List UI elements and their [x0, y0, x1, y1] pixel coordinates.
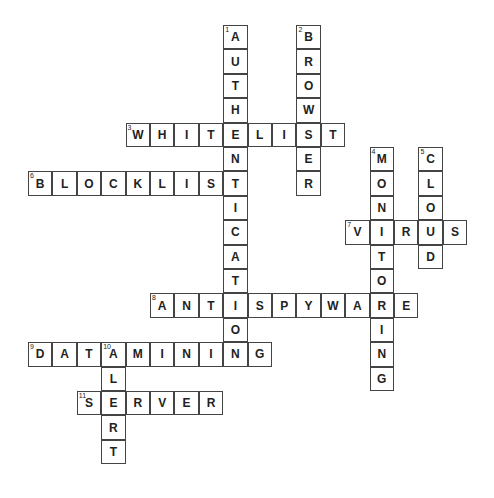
crossword-cell[interactable]: N	[223, 147, 247, 171]
crossword-cell[interactable]: T	[101, 440, 125, 464]
crossword-cell[interactable]: I	[272, 123, 296, 147]
crossword-cell[interactable]: H	[150, 123, 174, 147]
crossword-cell[interactable]: 4M	[370, 147, 394, 171]
crossword-cell[interactable]: I	[174, 171, 198, 195]
crossword-cell[interactable]: I	[223, 293, 247, 317]
cell-letter: S	[207, 177, 215, 191]
crossword-cell[interactable]: 6B	[28, 171, 52, 195]
crossword-cell[interactable]: W	[321, 293, 345, 317]
crossword-cell[interactable]: O	[223, 318, 247, 342]
crossword-cell[interactable]: S	[248, 293, 272, 317]
crossword-cell[interactable]: V	[150, 391, 174, 415]
crossword-cell[interactable]: 2B	[296, 25, 320, 49]
crossword-cell[interactable]: I	[150, 342, 174, 366]
cell-letter: G	[377, 372, 386, 386]
crossword-cell[interactable]: E	[174, 391, 198, 415]
crossword-cell[interactable]: Y	[296, 293, 320, 317]
crossword-cell[interactable]: T	[223, 171, 247, 195]
crossword-cell[interactable]: T	[77, 342, 101, 366]
crossword-cell[interactable]: L	[418, 171, 442, 195]
cell-letter: I	[185, 177, 188, 191]
crossword-cell[interactable]: S	[443, 220, 467, 244]
cell-letter: O	[84, 177, 93, 191]
cell-letter: E	[183, 396, 191, 410]
crossword-cell[interactable]: R	[101, 415, 125, 439]
crossword-cell[interactable]: N	[370, 342, 394, 366]
crossword-cell[interactable]: T	[370, 245, 394, 269]
crossword-cell[interactable]: P	[272, 293, 296, 317]
crossword-cell[interactable]: 7V	[345, 220, 369, 244]
cell-letter: R	[304, 55, 313, 69]
crossword-cell[interactable]: U	[418, 220, 442, 244]
crossword-cell[interactable]: M	[126, 342, 150, 366]
crossword-cell[interactable]: O	[418, 196, 442, 220]
crossword-cell[interactable]: N	[174, 293, 198, 317]
crossword-cell[interactable]: O	[370, 269, 394, 293]
crossword-cell[interactable]: 11S	[77, 391, 101, 415]
crossword-cell[interactable]: R	[394, 220, 418, 244]
crossword-cell[interactable]: C	[223, 220, 247, 244]
crossword-cell[interactable]: R	[199, 391, 223, 415]
crossword-cell[interactable]: A	[223, 245, 247, 269]
crossword-cell[interactable]: N	[370, 196, 394, 220]
crossword-cell[interactable]: H	[223, 98, 247, 122]
crossword-cell[interactable]: A	[345, 293, 369, 317]
crossword-cell[interactable]: K	[126, 171, 150, 195]
crossword-cell[interactable]: R	[126, 391, 150, 415]
cell-letter: T	[207, 128, 214, 142]
crossword-cell[interactable]: W	[296, 98, 320, 122]
crossword-cell[interactable]: I	[174, 123, 198, 147]
crossword-cell[interactable]: 9D	[28, 342, 52, 366]
crossword-cell[interactable]: G	[248, 342, 272, 366]
crossword-cell[interactable]: U	[223, 49, 247, 73]
crossword-cell[interactable]: E	[101, 391, 125, 415]
cell-letter: L	[256, 128, 263, 142]
crossword-cell[interactable]: N	[223, 342, 247, 366]
crossword-cell[interactable]: L	[101, 367, 125, 391]
crossword-cell[interactable]: A	[52, 342, 76, 366]
crossword-cell[interactable]: L	[150, 171, 174, 195]
crossword-cell[interactable]: R	[296, 49, 320, 73]
crossword-cell[interactable]: O	[370, 171, 394, 195]
crossword-cell[interactable]: I	[199, 342, 223, 366]
cell-letter: A	[231, 250, 240, 264]
cell-letter: I	[234, 299, 237, 313]
crossword-cell[interactable]: C	[101, 171, 125, 195]
crossword-cell[interactable]: G	[370, 367, 394, 391]
crossword-cell[interactable]: T	[321, 123, 345, 147]
crossword-cell[interactable]: T	[223, 269, 247, 293]
crossword-cell[interactable]: 3W	[126, 123, 150, 147]
crossword-cell[interactable]: 1A	[223, 25, 247, 49]
crossword-cell[interactable]: L	[52, 171, 76, 195]
cell-letter: M	[377, 152, 387, 166]
crossword-cell[interactable]: E	[296, 147, 320, 171]
cell-letter: R	[133, 396, 142, 410]
crossword-cell[interactable]: R	[296, 171, 320, 195]
crossword-cell[interactable]: 8A	[150, 293, 174, 317]
cell-letter: C	[426, 152, 435, 166]
cell-letter: L	[61, 177, 68, 191]
cell-letter: L	[427, 177, 434, 191]
crossword-cell[interactable]: T	[199, 123, 223, 147]
crossword-cell[interactable]: 5C	[418, 147, 442, 171]
crossword-cell[interactable]: E	[223, 123, 247, 147]
crossword-cell[interactable]: S	[296, 123, 320, 147]
cell-letter: E	[231, 128, 239, 142]
crossword-cell[interactable]: S	[199, 171, 223, 195]
crossword-cell[interactable]: N	[174, 342, 198, 366]
crossword-cell[interactable]: T	[199, 293, 223, 317]
cell-letter: W	[132, 128, 143, 142]
crossword-cell[interactable]: O	[77, 171, 101, 195]
crossword-cell[interactable]: D	[418, 245, 442, 269]
crossword-cell[interactable]: E	[394, 293, 418, 317]
crossword-cell[interactable]: O	[296, 74, 320, 98]
crossword-cell[interactable]: L	[248, 123, 272, 147]
crossword-cell[interactable]: I	[370, 318, 394, 342]
clue-number: 6	[30, 172, 34, 180]
crossword-cell[interactable]: R	[370, 293, 394, 317]
crossword-cell[interactable]: I	[370, 220, 394, 244]
cell-letter: E	[402, 299, 410, 313]
crossword-cell[interactable]: I	[223, 196, 247, 220]
crossword-cell[interactable]: T	[223, 74, 247, 98]
crossword-cell[interactable]: 10A	[101, 342, 125, 366]
